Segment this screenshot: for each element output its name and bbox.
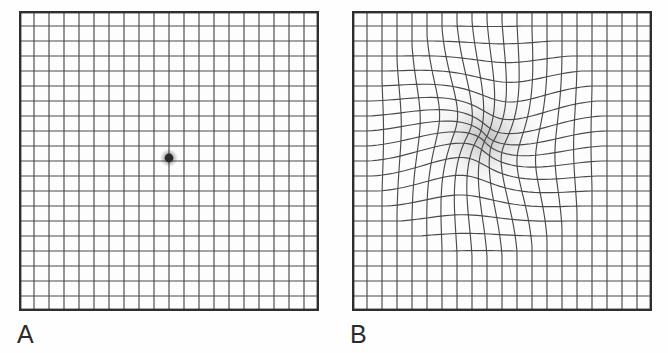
amsler-grid-figure: A B: [0, 0, 668, 353]
central-scotoma-smudge: [424, 86, 547, 190]
distorted-amsler-grid-svg: [352, 11, 652, 311]
normal-amsler-grid-svg: [19, 11, 319, 311]
central-fixation-dot: [165, 154, 174, 163]
panel-label-a: A: [17, 322, 34, 347]
normal-amsler-grid-panel: [19, 11, 319, 311]
grid-line-horizontal: [352, 26, 652, 27]
distorted-amsler-grid-panel: [352, 11, 652, 311]
panel-label-b: B: [350, 322, 367, 347]
